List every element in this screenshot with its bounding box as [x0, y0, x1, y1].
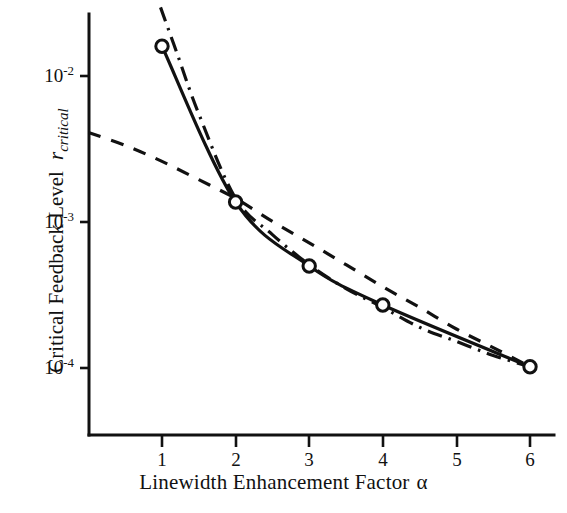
data-point-markers [156, 40, 536, 373]
x-tick-label-3: 3 [304, 449, 314, 471]
series-dash-dot-asymptote [161, 7, 530, 366]
x-tick-label-4: 4 [378, 449, 388, 471]
r-critical-symbol: rcritical [44, 108, 68, 171]
x-axis-label-text: Linewidth Enhancement Factor [139, 470, 409, 494]
chart-figure: 10-2 10-3 10-4 1 2 3 4 5 6 Linewidth Enh… [0, 0, 567, 513]
alpha-symbol: α [410, 470, 428, 494]
x-tick-label-2: 2 [231, 449, 241, 471]
axes [89, 14, 554, 435]
data-point-marker [303, 260, 315, 272]
y-axis-label: Critical Feedback Levelrcritical [44, 81, 69, 401]
data-point-marker [524, 361, 536, 373]
series-solid-curve [162, 46, 530, 367]
data-point-marker [156, 40, 168, 52]
x-tick-label-5: 5 [452, 449, 462, 471]
critical-subscript: critical [55, 108, 71, 152]
x-axis-label: Linewidth Enhancement Factorα [0, 470, 567, 495]
data-point-marker [377, 299, 389, 311]
y-axis-label-text: Critical Feedback Level [44, 171, 68, 373]
series-dashed-approximation [88, 133, 530, 367]
r-symbol: r [44, 152, 68, 160]
data-point-marker [229, 196, 241, 208]
x-tick-label-6: 6 [525, 449, 535, 471]
plot-area [0, 0, 567, 513]
x-tick-label-1: 1 [157, 449, 167, 471]
x-tick-marks [162, 435, 530, 447]
